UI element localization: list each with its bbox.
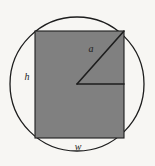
geometry-figure: a h w <box>0 0 155 166</box>
label-height-h: h <box>25 71 30 82</box>
label-hypotenuse-a: a <box>89 43 94 54</box>
label-width-w: w <box>75 141 82 152</box>
figure-canvas: a h w <box>0 0 155 166</box>
